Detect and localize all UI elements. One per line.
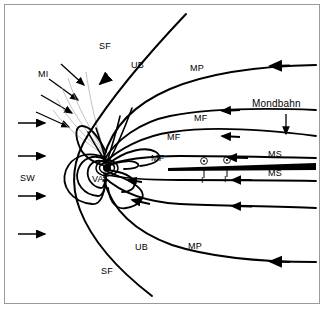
magnetosphere-figure: SW MI SF UB MP MF MF MF Mondbahn MS MS I… [0,0,327,311]
label-magnetosheath-bottom: UB [135,243,148,252]
label-interplanetary-field: MI [38,70,48,79]
label-van-allen: VA [92,175,104,184]
label-magnetopause-bottom: MP [188,242,202,251]
label-current-1: I [201,176,204,185]
label-neutral-sheet-top: MS [268,150,282,159]
polar-cusp-faint-lines [53,72,105,155]
label-field-line-3: MF [151,154,164,163]
tail-field-arrowheads-north [222,110,248,158]
label-magnetosheath-top: UB [131,61,144,70]
label-bow-shock-top: SF [99,42,111,51]
label-bow-shock-bottom: SF [101,267,113,276]
magnetopause-curves [104,65,316,262]
magnetopause-arrowheads [100,66,290,263]
label-solar-wind: SW [20,174,35,183]
label-moon-orbit: Mondbahn [252,99,301,109]
label-magnetopause-top: MP [190,64,204,73]
label-field-line-1: MF [194,114,207,123]
label-field-line-2: MF [167,133,180,142]
label-current-2: I [224,175,227,184]
tail-field-lines-north [104,109,316,166]
label-neutral-sheet-bottom: MS [268,169,282,178]
tail-field-lines-south [104,174,316,208]
tail-field-arrowheads-south [128,180,252,207]
neutral-sheet [168,163,316,171]
earth-body [103,164,111,172]
